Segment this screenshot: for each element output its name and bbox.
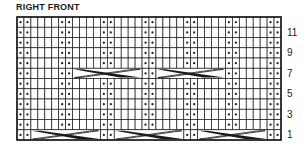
stitch-cell [121, 48, 128, 58]
purl-dot-icon [19, 124, 21, 126]
stitch-cell [73, 38, 80, 48]
stitch-cell [177, 79, 184, 89]
stitch-cell [80, 79, 87, 89]
stitch-cell [128, 99, 135, 109]
stitch-cell [246, 27, 253, 37]
stitch-cell [239, 109, 246, 119]
stitch-cell [177, 89, 184, 99]
stitch-cell [253, 27, 260, 37]
purl-dot-icon [276, 113, 278, 115]
purl-dot-icon [68, 83, 70, 85]
stitch-cell [31, 89, 38, 99]
stitch-cell [198, 17, 205, 27]
stitch-cell [31, 79, 38, 89]
stitch-cell [218, 27, 225, 37]
purl-dot-icon [151, 52, 153, 54]
stitch-cell [86, 48, 93, 58]
stitch-cell [198, 58, 205, 68]
purl-dot-icon [110, 124, 112, 126]
stitch-cell [198, 89, 205, 99]
stitch-cell [218, 79, 225, 89]
stitch-cell [205, 89, 212, 99]
stitch-cell [156, 38, 163, 48]
stitch-cell [253, 48, 260, 58]
stitch-cell [93, 99, 100, 109]
stitch-cell [45, 48, 52, 58]
purl-dot-icon [103, 52, 105, 54]
purl-dot-icon [144, 62, 146, 64]
stitch-cell [177, 48, 184, 58]
purl-dot-icon [269, 42, 271, 44]
stitch-cell [205, 17, 212, 27]
stitch-cell [253, 79, 260, 89]
purl-dot-icon [19, 83, 21, 85]
purl-dot-icon [269, 124, 271, 126]
stitch-cell [177, 99, 184, 109]
purl-dot-icon [151, 31, 153, 33]
stitch-cell [52, 99, 59, 109]
stitch-cell [212, 58, 219, 68]
stitch-cell [170, 58, 177, 68]
stitch-cell [73, 48, 80, 58]
stitch-cell [114, 109, 121, 119]
purl-dot-icon [26, 93, 28, 95]
stitch-cell [239, 48, 246, 58]
purl-dot-icon [186, 113, 188, 115]
purl-dot-icon [110, 103, 112, 105]
purl-dot-icon [269, 72, 271, 74]
stitch-cell [253, 38, 260, 48]
stitch-cell [253, 89, 260, 99]
purl-dot-icon [193, 103, 195, 105]
purl-dot-icon [269, 31, 271, 33]
stitch-cell [135, 99, 142, 109]
purl-dot-icon [26, 103, 28, 105]
stitch-cell [45, 38, 52, 48]
purl-dot-icon [144, 31, 146, 33]
stitch-cell [52, 27, 59, 37]
stitch-cell [218, 48, 225, 58]
purl-dot-icon [228, 31, 230, 33]
purl-dot-icon [110, 42, 112, 44]
stitch-cell [38, 99, 45, 109]
stitch-cell [246, 89, 253, 99]
stitch-cell [80, 120, 87, 130]
purl-dot-icon [61, 124, 63, 126]
stitch-cell [239, 79, 246, 89]
purl-dot-icon [61, 42, 63, 44]
purl-dot-icon [186, 93, 188, 95]
stitch-cell [52, 38, 59, 48]
stitch-cell [218, 120, 225, 130]
stitch-cell [177, 38, 184, 48]
stitch-cell [253, 68, 260, 78]
purl-dot-icon [19, 62, 21, 64]
stitch-cell [163, 17, 170, 27]
purl-dot-icon [151, 113, 153, 115]
stitch-cell [205, 99, 212, 109]
stitch-cell [156, 79, 163, 89]
purl-dot-icon [276, 124, 278, 126]
stitch-cell [177, 58, 184, 68]
stitch-cell [128, 58, 135, 68]
purl-dot-icon [103, 21, 105, 23]
purl-dot-icon [61, 31, 63, 33]
stitch-cell [52, 120, 59, 130]
stitch-cell [38, 38, 45, 48]
stitch-cell [239, 38, 246, 48]
purl-dot-icon [151, 124, 153, 126]
stitch-cell [121, 79, 128, 89]
stitch-cell [128, 109, 135, 119]
purl-dot-icon [276, 42, 278, 44]
stitch-cell [156, 27, 163, 37]
stitch-cell [128, 17, 135, 27]
row-number-label: 5 [287, 89, 293, 99]
stitch-cell [253, 109, 260, 119]
purl-dot-icon [276, 72, 278, 74]
stitch-cell [80, 27, 87, 37]
purl-dot-icon [193, 93, 195, 95]
knitting-chart [0, 0, 306, 154]
purl-dot-icon [144, 21, 146, 23]
stitch-cell [38, 120, 45, 130]
stitch-cell [156, 48, 163, 58]
purl-dot-icon [228, 72, 230, 74]
stitch-cell [170, 79, 177, 89]
